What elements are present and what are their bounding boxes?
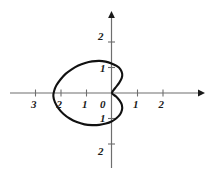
y-tick-label-1: 1 (100, 63, 106, 74)
axes-group (10, 11, 205, 168)
x-tick-label--2: 2 (57, 99, 63, 110)
chart-canvas (0, 0, 209, 177)
x-tick-label--3: 3 (31, 99, 37, 110)
x-tick-label--1: 1 (82, 99, 88, 110)
polar-curve-chart: 3 2 1 0 1 2 2 1 1 2 (0, 0, 209, 177)
y-tick-label-2: 2 (98, 31, 104, 42)
x-axis-arrowhead (198, 90, 205, 97)
x-tick-label-1: 1 (133, 99, 139, 110)
y-axis-arrowhead (108, 11, 115, 18)
y-tick-label--2: 2 (98, 146, 104, 157)
x-tick-label-2: 2 (159, 99, 165, 110)
origin-label: 0 (100, 99, 106, 110)
y-tick-label--1: 1 (100, 113, 106, 124)
